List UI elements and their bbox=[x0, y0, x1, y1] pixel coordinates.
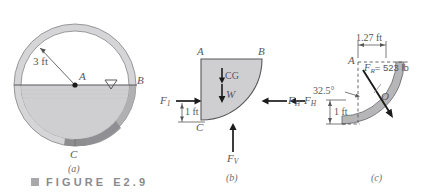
force-fh-left-subscript: H bbox=[311, 99, 316, 108]
dimension-1ft-label-c: 1 ft bbox=[334, 106, 348, 117]
resultant-force-label: FR= 523 lb bbox=[364, 62, 409, 75]
point-a-label-c: A bbox=[348, 54, 355, 66]
dimension-127ft bbox=[358, 41, 386, 58]
point-c-label-a: C bbox=[70, 148, 77, 160]
force-fh-left-label: FH bbox=[304, 94, 316, 108]
angle-label: 32.5° bbox=[313, 85, 335, 96]
force-fh-label: FH bbox=[288, 94, 300, 108]
force-f1-subscript: 1 bbox=[167, 99, 171, 108]
panel-caption-b: (b) bbox=[226, 172, 238, 183]
dimension-1ft-label-b: 1 ft bbox=[185, 106, 199, 117]
point-c-label-b: C bbox=[196, 121, 203, 133]
force-fh-subscript: H bbox=[295, 99, 300, 108]
dimension-127ft-label: 1.27 ft bbox=[356, 32, 382, 43]
figure-caption-label: FIGURE bbox=[46, 176, 106, 188]
cg-label: CG bbox=[225, 70, 239, 81]
figure-panels: 3 ft A B C (a) A B C CG W F1 FH FV 1 ft … bbox=[0, 0, 447, 194]
radius-label: 3 ft bbox=[33, 55, 48, 67]
panel-caption-a: (a) bbox=[68, 163, 80, 174]
square-bullet-icon bbox=[31, 178, 39, 186]
panel-caption-c: (c) bbox=[371, 172, 382, 183]
force-fh-arrow bbox=[262, 97, 288, 104]
point-b-label-a: B bbox=[137, 74, 144, 86]
force-f1-symbol: F bbox=[160, 94, 167, 106]
figure-caption-number: E2.9 bbox=[113, 176, 148, 188]
point-a-label-b: A bbox=[197, 45, 204, 57]
force-fv-label: FV bbox=[227, 152, 238, 166]
resultant-value: = 523 lb bbox=[375, 62, 409, 73]
force-fh-left-symbol: F bbox=[304, 94, 311, 106]
fluid-region bbox=[18, 85, 134, 145]
point-b-label-b: B bbox=[258, 45, 265, 57]
force-f1-label: F1 bbox=[160, 94, 170, 108]
figure-caption: FIGURE E2.9 bbox=[31, 176, 148, 188]
force-fv-arrow bbox=[229, 123, 236, 152]
point-a-marker bbox=[72, 82, 77, 87]
force-fv-symbol: F bbox=[227, 152, 234, 164]
force-fv-subscript: V bbox=[234, 157, 239, 166]
point-o-label: O bbox=[381, 90, 389, 102]
force-fh-symbol: F bbox=[288, 94, 295, 106]
force-f1-arrow bbox=[176, 97, 202, 104]
weight-label: W bbox=[226, 88, 235, 100]
point-a-label: A bbox=[79, 70, 86, 82]
